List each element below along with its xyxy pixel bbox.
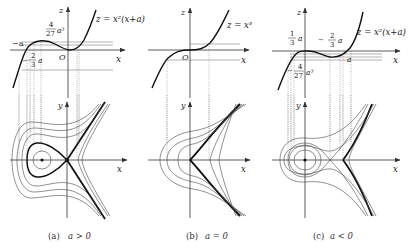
curve-label: z = x²(x+a) [356,27,406,37]
svg-text:a: a [338,36,342,45]
x-axis-label: x [393,164,398,174]
critical-point-label: − 2 3 a [318,32,342,49]
curve-label: z = x²(x+a) [95,14,145,24]
svg-text:4: 4 [298,63,303,71]
root-label: −a [12,39,24,48]
panel-c-caption: (c) a < 0 [313,231,354,241]
panel-b: z x O z = x³ y x (b) [148,8,253,241]
svg-text:a³: a³ [306,68,313,77]
panel-c-upper-plot: z x z = x²(x+a) 1 3 a − 2 3 a − 4 27 a [272,8,406,142]
svg-text:−: − [287,67,293,75]
panel-c: z x z = x²(x+a) 1 3 a − 2 3 a − 4 27 a [272,8,406,241]
saddle-point [65,158,69,162]
cubic-curve [152,10,229,88]
panel-a: z x O z = x²(x+a) −a 4 27 a³ 2 3 a − y [10,6,145,241]
svg-text:1: 1 [290,30,294,38]
svg-text:2: 2 [31,52,35,60]
root-label: a [347,55,351,64]
panel-b-phase-portrait: y x [148,95,250,218]
svg-text:a < 0: a < 0 [330,231,354,241]
svg-text:27: 27 [46,30,55,38]
svg-text:3: 3 [290,39,294,47]
svg-text:−: − [22,57,28,65]
origin-label: O [59,53,66,62]
svg-text:a > 0: a > 0 [68,231,92,241]
x-axis-label: x [116,54,121,64]
svg-text:a = 0: a = 0 [205,231,229,241]
x-axis-label: x [393,55,398,65]
svg-text:(c): (c) [313,231,324,241]
y-axis-label: y [180,101,186,110]
x-axis-label: x [117,164,122,174]
z-axis-label: z [180,8,186,17]
svg-text:2: 2 [330,32,334,40]
origin-label: O [182,53,189,62]
figure-canvas: z x O z = x²(x+a) −a 4 27 a³ 2 3 a − y [0,0,417,248]
max-value-label: 4 27 a³ [46,21,64,38]
y-axis-label: y [57,101,63,110]
x-axis-label: x [241,164,246,174]
panel-a-caption: (a) a > 0 [48,231,92,241]
panel-c-phase-portrait: y x [272,95,400,218]
svg-text:a³: a³ [57,26,64,35]
separatrix-branch [343,104,372,160]
one-third-a-label: 1 3 a [288,30,302,47]
center-point [303,158,306,161]
panel-b-upper-plot: z x O z = x³ [148,8,253,142]
panel-b-caption: (b) a = 0 [186,231,229,241]
critical-point-label: 2 3 a − [22,52,42,69]
svg-text:(a): (a) [48,231,60,241]
svg-text:3: 3 [31,61,35,69]
svg-text:4: 4 [49,21,54,29]
drop-lines [19,42,79,142]
svg-text:3: 3 [330,41,334,49]
separatrix-branch [67,160,105,219]
svg-text:a: a [298,34,302,43]
center-point [40,158,43,161]
svg-text:−: − [318,36,324,44]
svg-text:(b): (b) [186,231,198,241]
curve-label: z = x³ [226,20,253,30]
x-axis-label: x [241,55,246,65]
separatrix-branch [343,160,372,216]
svg-text:27: 27 [294,72,303,80]
svg-text:a: a [38,56,42,65]
y-axis-label: y [295,101,301,110]
z-axis-label: z [296,8,302,17]
z-axis-label: z [58,6,64,15]
cubic-curve [13,10,96,88]
panel-a-phase-portrait: y x [10,95,127,219]
